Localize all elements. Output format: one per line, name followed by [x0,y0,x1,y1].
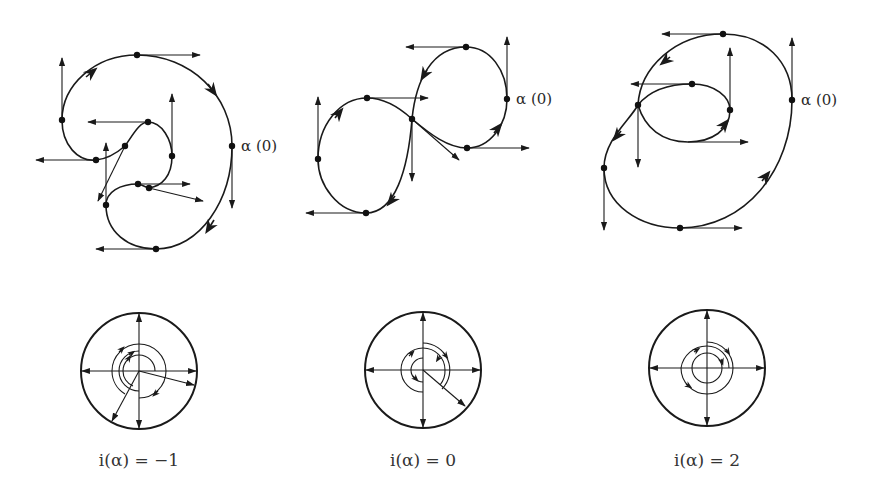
curve-point [59,117,65,123]
direction-arrow [335,113,339,118]
curve-point [146,185,152,191]
tangent-vector [149,188,203,201]
rotation-arrow [694,350,697,352]
tangent-indicatrix-1 [81,313,197,429]
start-point [229,143,235,149]
curve-point [464,145,470,151]
curve-point [720,31,726,37]
direction-arrow [762,176,766,181]
start-label-3: α (0) [801,91,837,109]
crossing-point [409,116,415,122]
rotation-arrow [443,352,446,356]
curve-point [689,81,695,87]
curve-point [122,143,128,149]
closed-curve-3 [604,34,792,228]
rotation-arrow [721,359,722,362]
figure-1-tangent-vectors [36,55,232,249]
curve-point [463,44,469,50]
indicatrix-vector [112,371,139,421]
direction-arrow [209,220,214,228]
crossing-point [635,102,641,108]
rotation-index-caption-2: i(α) = 0 [390,450,456,470]
direction-arrow [208,84,213,91]
curve-point [677,225,683,231]
curve-point [363,210,369,216]
curve-point [601,165,607,171]
figure-1-points [59,52,235,252]
curve-point [145,119,151,125]
closed-curve-1 [62,55,232,249]
rotation-index-caption-1: i(α) = −1 [99,450,179,470]
curve-point [364,95,370,101]
start-point [789,97,795,103]
start-label-1: α (0) [241,137,277,155]
start-point [504,96,510,102]
curve-point [135,181,141,187]
curve-point [315,156,321,162]
tangent-vector [412,119,459,160]
curve-point [153,246,159,252]
figure-3-curve [604,34,792,228]
curve-point [169,153,175,159]
start-label-2: α (0) [516,90,552,108]
curve-point [103,202,109,208]
inner-loop-3 [638,84,730,142]
curve-point [134,52,140,58]
tangent-indicatrix-2 [365,312,481,428]
curve-point [727,107,733,113]
figure-3-tangent-vectors [604,34,792,230]
indicatrix-vector [139,371,194,385]
rotation-arrow [438,356,440,359]
figure-1-curve [62,55,232,249]
diagram-canvas: α (0) α (0) [0,0,872,498]
figure-3-points [601,31,795,231]
rotation-arrow [409,353,412,356]
indicatrix-vector [423,370,465,406]
curve-point [93,157,99,163]
direction-arrow [665,57,670,61]
rotation-index-caption-3: i(α) = 2 [674,450,740,470]
tangent-indicatrix-3 [649,310,765,426]
